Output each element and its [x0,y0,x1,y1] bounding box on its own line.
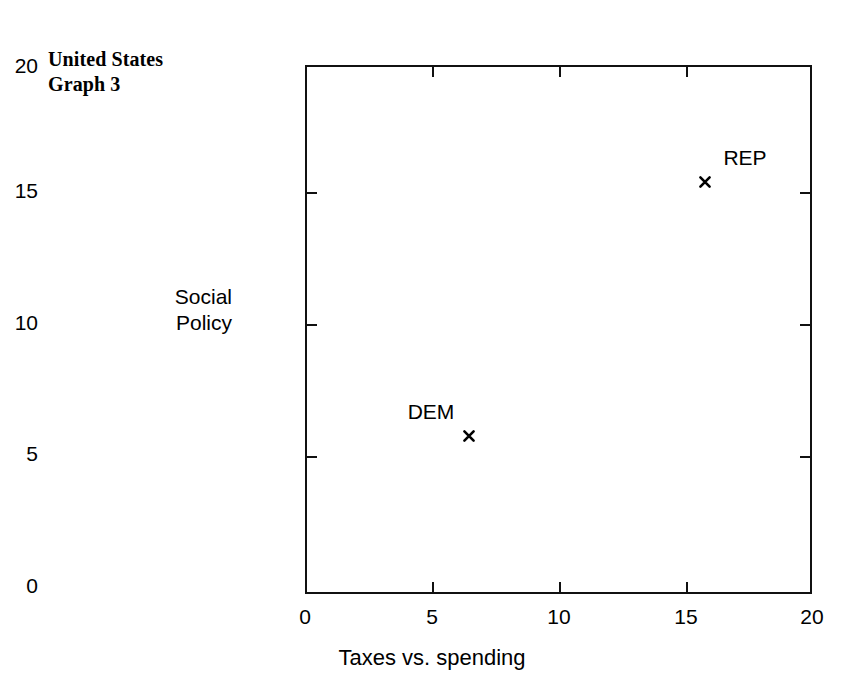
x-axis-title-text: Taxes vs. spending [338,645,525,671]
x-tick-mark-top-15 [686,67,688,77]
x-tick-mark-10 [559,582,561,592]
point-label-dem: DEM [408,401,455,422]
y-tick-mark-right-15 [800,192,810,194]
y-axis-title: Social Policy [100,284,232,336]
y-tick-mark-right-10 [800,324,810,326]
y-tick-label-10: 10 [15,312,38,333]
chart-title: United States Graph 3 [48,47,163,97]
y-tick-mark-right-5 [800,456,810,458]
y-axis-title-line-2: Policy [100,310,232,336]
y-tick-label-15: 15 [15,180,38,201]
x-tick-label-5: 5 [426,606,438,627]
data-point-rep [698,175,712,189]
x-tick-mark-top-10 [559,67,561,77]
chart-title-line-1: United States [48,47,163,72]
data-point-dem [462,429,476,443]
y-tick-label-20: 20 [15,55,38,76]
plot-area: DEM REP [305,65,812,594]
x-tick-mark-top-5 [432,67,434,77]
point-label-rep: REP [723,147,766,168]
x-tick-label-0: 0 [299,606,311,627]
y-tick-mark-10 [307,324,317,326]
x-axis-title: Taxes vs. spending [0,645,856,671]
x-tick-label-10: 10 [547,606,570,627]
y-axis-title-line-1: Social [100,284,232,310]
y-tick-label-0: 0 [26,575,38,596]
x-tick-label-15: 15 [674,606,697,627]
x-tick-mark-15 [686,582,688,592]
x-tick-label-20: 20 [800,606,823,627]
chart-title-line-2: Graph 3 [48,72,163,97]
y-tick-mark-15 [307,192,317,194]
y-tick-label-5: 5 [26,443,38,464]
y-tick-mark-5 [307,456,317,458]
x-tick-mark-5 [432,582,434,592]
chart-figure: United States Graph 3 20 15 10 5 0 Socia… [0,0,856,693]
